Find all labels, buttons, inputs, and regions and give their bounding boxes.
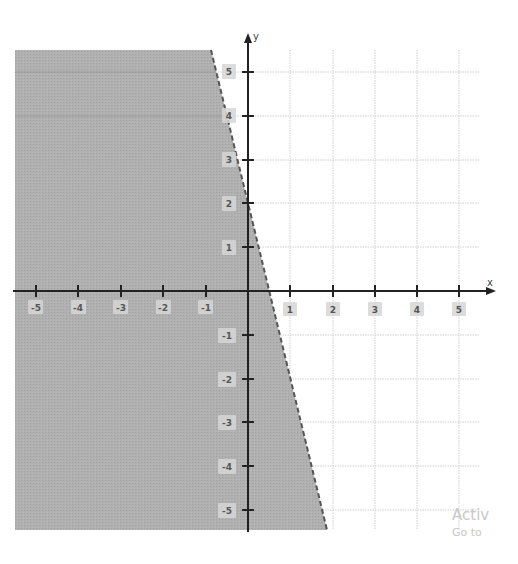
x-tick-label: 4 <box>414 305 420 315</box>
x-tick-label: -2 <box>158 303 168 313</box>
y-tick-label: 2 <box>226 199 232 209</box>
activation-watermark-subtext: Go to <box>452 526 482 539</box>
y-tick-label: 1 <box>226 243 232 253</box>
y-tick-label: -2 <box>222 375 232 385</box>
y-tick-label: -1 <box>222 331 232 341</box>
y-axis-label: y <box>253 31 259 42</box>
x-tick-label: 2 <box>330 305 336 315</box>
activation-watermark: Activ <box>452 506 489 524</box>
x-tick-label: -1 <box>201 303 211 313</box>
x-axis-label: x <box>487 277 493 288</box>
y-tick-label: 4 <box>226 111 232 121</box>
x-tick-label: -3 <box>116 303 126 313</box>
x-tick-label: -5 <box>31 303 41 313</box>
y-tick-label: -5 <box>222 506 232 516</box>
x-tick-label: 1 <box>287 305 293 315</box>
x-tick-label: 3 <box>372 305 378 315</box>
x-tick-label: 5 <box>456 305 462 315</box>
coordinate-plane: -5 -4 -3 -2 -1 1 2 3 4 5 5 4 3 2 1 -1 -2… <box>0 0 518 564</box>
x-axis-arrow-icon <box>486 287 496 295</box>
y-tick-label: -4 <box>222 462 232 472</box>
y-tick-label: 5 <box>226 67 232 77</box>
x-tick-label: -4 <box>73 303 83 313</box>
y-axis-arrow-icon <box>244 33 252 43</box>
y-tick-label: -3 <box>222 418 232 428</box>
y-tick-label: 3 <box>226 155 232 165</box>
